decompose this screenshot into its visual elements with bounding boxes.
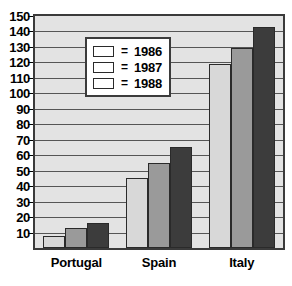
y-axis-tick-label: 150 <box>9 10 30 23</box>
bar-italy-1987 <box>231 48 253 248</box>
x-axis-tick-label: Italy <box>229 256 254 269</box>
bar-spain-1988 <box>170 147 192 248</box>
bar-italy-1986 <box>209 64 231 248</box>
bar-portugal-1987 <box>65 228 87 248</box>
plot-area: = 1986 = 1987 = 1988 <box>33 14 285 250</box>
bar-portugal-1988 <box>87 223 109 248</box>
legend-label-1986: 1986 <box>134 45 162 58</box>
bar-group-italy <box>200 16 283 248</box>
legend-item: = 1987 <box>93 59 162 75</box>
y-axis-tick-label: 110 <box>10 71 30 84</box>
legend-swatch-1987 <box>93 62 114 73</box>
legend-swatch-1986 <box>93 46 114 57</box>
legend-item: = 1986 <box>93 43 162 59</box>
legend-equals-sign: = <box>121 61 128 73</box>
y-axis: 102030405060708090100110120130140150 <box>0 0 33 250</box>
legend-item: = 1988 <box>93 75 162 91</box>
x-axis-tick-label: Portugal <box>51 256 102 269</box>
bar-italy-1988 <box>253 27 275 248</box>
bar-portugal-1986 <box>43 236 65 248</box>
legend-label-1988: 1988 <box>134 77 162 90</box>
y-axis-tick-label: 130 <box>9 40 30 53</box>
y-axis-tick-label: 140 <box>9 25 30 38</box>
legend-equals-sign: = <box>121 45 128 57</box>
legend-swatch-1988 <box>93 78 114 89</box>
bar-spain-1987 <box>148 163 170 248</box>
bar-chart: 102030405060708090100110120130140150 = 1… <box>0 0 292 286</box>
legend-label-1987: 1987 <box>134 61 162 74</box>
legend-equals-sign: = <box>121 77 128 89</box>
chart-legend: = 1986 = 1987 = 1988 <box>85 37 171 97</box>
y-axis-tick-label: 100 <box>9 87 30 100</box>
bar-spain-1986 <box>126 178 148 248</box>
y-axis-tick-label: 120 <box>9 56 30 69</box>
x-axis-tick-label: Spain <box>142 256 176 269</box>
x-axis: PortugalSpainItaly <box>33 252 285 280</box>
